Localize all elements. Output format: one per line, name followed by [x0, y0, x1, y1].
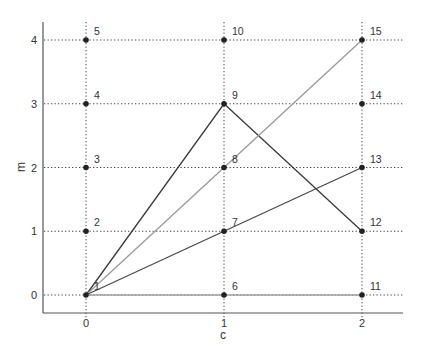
y-axis-title: m — [14, 162, 28, 172]
point-label: 1 — [94, 280, 100, 292]
diagram-canvas: 01234 012 123456789101112131415 c m — [0, 0, 430, 359]
point-marker — [83, 101, 89, 107]
point-marker — [221, 37, 227, 43]
point-marker — [83, 165, 89, 171]
point-marker — [359, 165, 365, 171]
point-label: 8 — [232, 153, 238, 165]
point-marker — [359, 228, 365, 234]
point-marker — [221, 292, 227, 298]
point-label: 9 — [232, 89, 238, 101]
point-marker — [221, 165, 227, 171]
point-marker — [221, 228, 227, 234]
point-label: 13 — [370, 153, 382, 165]
point-marker — [83, 292, 89, 298]
point-label: 15 — [370, 25, 382, 37]
point-label: 11 — [370, 280, 381, 292]
y-tick-label: 0 — [31, 289, 37, 301]
y-tick-label: 1 — [31, 225, 37, 237]
point-label: 3 — [94, 153, 100, 165]
point-marker — [359, 37, 365, 43]
y-tick-labels: 01234 — [31, 34, 37, 301]
x-axis-title: c — [220, 328, 226, 342]
point-label: 12 — [370, 216, 382, 228]
y-tick-label: 2 — [31, 162, 37, 174]
y-tick-label: 4 — [31, 34, 37, 46]
point-marker — [83, 228, 89, 234]
point-label: 7 — [232, 216, 238, 228]
point-marker — [83, 37, 89, 43]
point-marker — [221, 101, 227, 107]
path-1-9-12 — [86, 104, 362, 295]
point-label: 2 — [94, 216, 100, 228]
lattice-diagram: 01234 012 123456789101112131415 c m — [0, 0, 430, 359]
point-marker — [359, 292, 365, 298]
point-label: 14 — [370, 89, 382, 101]
point-marker — [359, 101, 365, 107]
x-tick-label: 0 — [83, 317, 89, 329]
point-label: 5 — [94, 25, 100, 37]
point-label: 4 — [94, 89, 100, 101]
y-tick-label: 3 — [31, 98, 37, 110]
point-label: 6 — [232, 280, 238, 292]
point-label: 10 — [232, 25, 244, 37]
x-tick-label: 2 — [359, 317, 365, 329]
